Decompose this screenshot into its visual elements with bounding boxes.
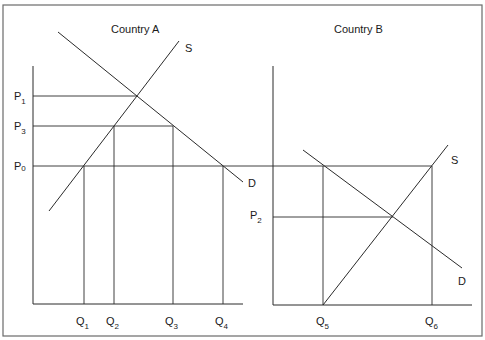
quantity-label-q6: Q6	[425, 315, 439, 331]
panel-country-a: Country A S D P1 P3 P0 Q1 Q2 Q3 Q4	[14, 23, 432, 331]
supply-label-a: S	[185, 42, 192, 54]
panel-country-b: Country B S D P2 Q5 Q6	[250, 23, 472, 331]
quantity-label-q2: Q2	[106, 315, 120, 331]
price-label-p3: P3	[14, 120, 26, 136]
quantity-label-q1: Q1	[76, 315, 90, 331]
demand-curve-a	[58, 32, 243, 182]
price-label-p1: P1	[14, 90, 26, 106]
quantity-label-q3: Q3	[165, 315, 179, 331]
demand-label-b: D	[458, 275, 466, 287]
demand-curve-b	[303, 150, 462, 268]
panel-title-country-b: Country B	[334, 23, 383, 35]
supply-demand-diagram: Country A S D P1 P3 P0 Q1 Q2 Q3 Q4 Count…	[0, 0, 485, 340]
demand-label-a: D	[248, 177, 256, 189]
price-label-p2: P2	[250, 209, 262, 225]
supply-curve-b	[323, 145, 448, 305]
quantity-label-q5: Q5	[316, 315, 330, 331]
supply-label-b: S	[451, 154, 458, 166]
price-label-p0: P0	[14, 160, 26, 173]
panel-title-country-a: Country A	[111, 23, 160, 35]
figure-border	[3, 5, 482, 336]
quantity-label-q4: Q4	[215, 315, 229, 331]
